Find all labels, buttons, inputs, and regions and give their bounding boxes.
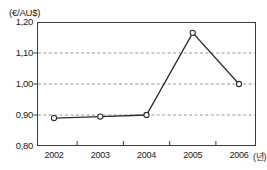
y-axis-tick-label: 1,20 — [0, 16, 33, 27]
y-axis-tick-label: 1,00 — [0, 78, 33, 89]
data-series-line — [54, 33, 239, 118]
x-axis-tick-label: 2005 — [183, 150, 202, 160]
data-point-marker-group — [51, 30, 241, 120]
x-axis-tick-label: 2002 — [45, 150, 64, 160]
x-tick-mark-group — [77, 141, 216, 145]
y-axis-tick-label: 0,90 — [0, 109, 33, 120]
data-point-marker — [236, 81, 241, 86]
exchange-rate-line-chart: (€/AU$) 1,201,101,000,900,80 20022003200… — [0, 0, 267, 170]
data-point-marker — [190, 30, 195, 35]
x-axis-tick-label: 2006 — [230, 150, 249, 160]
chart-canvas — [0, 0, 267, 170]
data-point-marker — [98, 114, 103, 119]
y-axis-tick-label: 1,10 — [0, 47, 33, 58]
gridline-group — [38, 53, 255, 115]
x-axis-tick-label: 2004 — [137, 150, 156, 160]
x-axis-unit-label: (년) — [253, 150, 266, 163]
x-axis-tick-label: 2003 — [91, 150, 110, 160]
y-tick-mark-group — [34, 53, 38, 115]
data-point-marker — [51, 116, 56, 121]
y-axis-tick-label: 0,80 — [0, 140, 33, 151]
data-point-marker — [144, 112, 149, 117]
